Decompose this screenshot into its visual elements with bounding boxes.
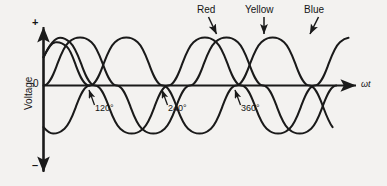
red-callout-arrow	[209, 17, 217, 34]
waveform-plot	[0, 0, 387, 186]
three-phase-waveform-figure: Red Yellow Blue 120° 240° 360° + – 0 Vol…	[0, 0, 387, 186]
y-axis-minus-sign: –	[32, 160, 38, 171]
deg360-pointer-arrow	[235, 90, 241, 105]
phase-label-yellow: Yellow	[245, 5, 274, 15]
phase-label-red: Red	[197, 5, 215, 15]
angle-marker-120: 120°	[95, 104, 114, 113]
y-axis-title: Voltage	[24, 77, 34, 110]
y-axis-plus-sign: +	[32, 17, 38, 28]
deg240-pointer-arrow	[162, 90, 168, 105]
x-axis-title: ωt	[361, 80, 371, 89]
angle-marker-360: 360°	[241, 104, 260, 113]
angle-marker-240: 240°	[168, 104, 187, 113]
deg120-pointer-arrow	[89, 90, 95, 105]
phase-label-blue: Blue	[304, 5, 324, 15]
blue-callout-arrow	[310, 17, 319, 34]
